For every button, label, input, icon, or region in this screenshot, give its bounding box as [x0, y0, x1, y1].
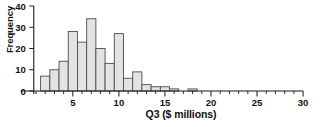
histogram-bar	[59, 61, 68, 91]
y-axis-ticks: 010203040	[15, 1, 34, 97]
x-axis-tick-label: 20	[206, 97, 217, 108]
histogram-bar	[77, 42, 86, 91]
histogram-figure: Frequency 51015202530 010203040 Q3 ($ mi…	[0, 0, 322, 127]
y-axis-tick-label: 40	[15, 1, 26, 12]
x-axis-tick-label: 15	[160, 97, 171, 108]
histogram-bar	[142, 85, 151, 91]
x-axis-tick-label: 30	[298, 97, 309, 108]
x-axis-tick-label: 5	[70, 97, 76, 108]
histogram-bar	[96, 49, 105, 92]
histogram-bar	[50, 70, 59, 91]
y-axis-tick-label: 0	[21, 86, 26, 97]
x-axis-tick-label: 25	[252, 97, 263, 108]
histogram-bar	[114, 34, 123, 91]
histogram-bar	[151, 87, 160, 91]
x-axis-tick-label: 10	[114, 97, 125, 108]
histogram-bar	[68, 32, 77, 92]
histogram-bar	[87, 19, 96, 91]
y-axis-tick-label: 20	[15, 43, 26, 54]
histogram-bar	[124, 78, 133, 91]
histogram-bar	[41, 76, 50, 91]
x-axis-label: Q3 ($ millions)	[0, 108, 322, 120]
histogram-bar	[160, 87, 169, 91]
x-axis-ticks: 51015202530	[36, 91, 308, 108]
y-axis-tick-label: 10	[15, 64, 26, 75]
histogram-bar	[133, 72, 142, 91]
y-axis-label: Frequency	[4, 0, 15, 65]
x-axis-label-text: Q3 ($ millions)	[146, 108, 217, 120]
histogram-bar	[105, 63, 114, 91]
y-axis-tick-label: 30	[15, 22, 26, 33]
bars-group	[41, 19, 198, 91]
